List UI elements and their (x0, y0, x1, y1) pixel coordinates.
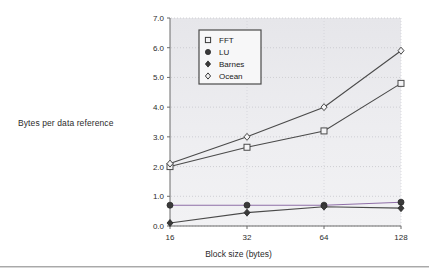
svg-text:Ocean: Ocean (219, 72, 243, 81)
svg-text:FFT: FFT (219, 36, 234, 45)
chart-figure: Bytes per data reference 0.01.02.03.04.0… (0, 0, 429, 273)
svg-text:5.0: 5.0 (153, 73, 165, 82)
y-axis-ticks: 0.01.02.03.04.05.06.07.0 (153, 14, 170, 231)
svg-text:16: 16 (166, 233, 175, 242)
svg-text:Barnes: Barnes (219, 60, 244, 69)
plot-svg: 0.01.02.03.04.05.06.07.0 163264128 FFTLU… (0, 0, 429, 273)
svg-text:LU: LU (219, 48, 229, 57)
svg-text:128: 128 (394, 233, 408, 242)
svg-text:0.0: 0.0 (153, 222, 165, 231)
svg-text:3.0: 3.0 (153, 133, 165, 142)
svg-text:4.0: 4.0 (153, 103, 165, 112)
svg-text:2.0: 2.0 (153, 163, 165, 172)
chart-legend: FFTLUBarnesOcean (199, 30, 261, 84)
svg-text:6.0: 6.0 (153, 44, 165, 53)
x-axis-title: Block size (bytes) (0, 249, 429, 259)
footer-divider-shadow (0, 267, 429, 268)
x-axis-ticks: 163264128 (166, 226, 409, 242)
svg-text:32: 32 (243, 233, 252, 242)
svg-text:1.0: 1.0 (153, 192, 165, 201)
x-axis-title-text: Block size (bytes) (157, 249, 272, 259)
svg-text:7.0: 7.0 (153, 14, 165, 23)
svg-text:64: 64 (320, 233, 329, 242)
